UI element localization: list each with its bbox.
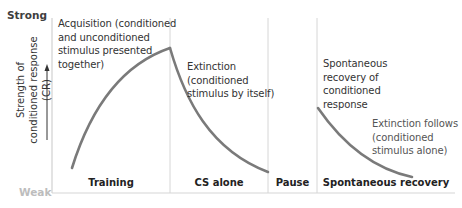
annotation-line: stimulus by itself) bbox=[187, 87, 274, 101]
annotation-line: stimulus presented bbox=[58, 44, 176, 58]
annotation-line: response bbox=[323, 98, 387, 112]
phase-label-pause: Pause bbox=[268, 177, 317, 188]
phase-label-spontaneous-recovery: Spontaneous recovery bbox=[317, 177, 455, 188]
annotation-line: and unconditioned bbox=[58, 31, 176, 45]
annotation-line: (conditioned bbox=[372, 131, 458, 145]
annotation-line: Extinction follows bbox=[372, 117, 458, 131]
annotation-line: recovery of bbox=[323, 71, 387, 85]
y-axis-label-line1: Strength of bbox=[14, 30, 27, 150]
annotation-line: conditioned bbox=[323, 84, 387, 98]
phase-label-cs-alone: CS alone bbox=[170, 177, 268, 188]
annotation-line: Spontaneous bbox=[323, 57, 387, 71]
annotation-line: stimulus alone) bbox=[372, 144, 458, 158]
annotation-line: Acquisition (conditioned bbox=[58, 17, 176, 31]
annotation-line: together) bbox=[58, 58, 176, 72]
weak-label: Weak bbox=[19, 186, 51, 198]
acquisition-annotation: Acquisition (conditioned and uncondition… bbox=[58, 17, 176, 71]
y-axis-label: Strength of conditioned response (CR) bbox=[14, 30, 53, 150]
spontaneous-recovery-annotation: Spontaneous recovery of conditioned resp… bbox=[323, 57, 387, 111]
extinction-follows-annotation: Extinction follows (conditioned stimulus… bbox=[372, 117, 458, 158]
annotation-line: Extinction bbox=[187, 60, 274, 74]
phase-label-training: Training bbox=[52, 177, 170, 188]
extinction-annotation: Extinction (conditioned stimulus by itse… bbox=[187, 60, 274, 101]
annotation-line: (conditioned bbox=[187, 74, 274, 88]
y-axis-label-line2: conditioned response (CR) bbox=[27, 30, 53, 150]
strong-label: Strong bbox=[7, 9, 47, 21]
